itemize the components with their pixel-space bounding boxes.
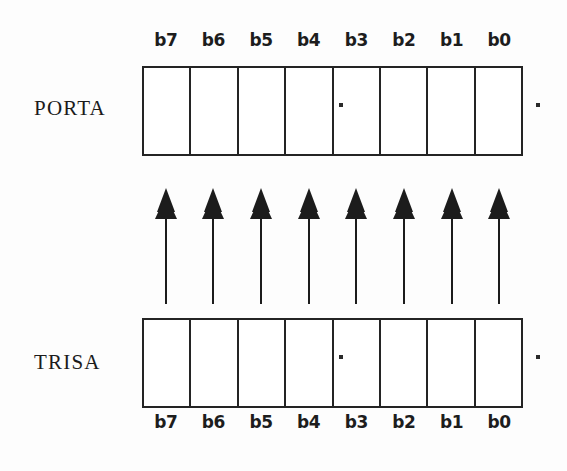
porta-cell-b5 (239, 68, 286, 154)
porta-cell-b3 (334, 68, 381, 154)
arrow-up-icon (439, 186, 465, 306)
arrow-b2 (391, 186, 417, 306)
trisa-bit-label-b4: b4 (285, 412, 333, 432)
trisa-bit-label-b7: b7 (142, 412, 190, 432)
porta-bit-label-b3: b3 (333, 30, 381, 50)
arrow-b0 (486, 186, 512, 306)
arrow-up-icon (200, 186, 226, 306)
arrow-b5 (248, 186, 274, 306)
arrow-b4 (296, 186, 322, 306)
trisa-bit-label-b1: b1 (428, 412, 476, 432)
scan-speck-icon (339, 355, 343, 359)
trisa-cell-b2 (381, 320, 428, 406)
diagram-canvas: b7 b6 b5 b4 b3 b2 b1 b0 PORTA (0, 0, 567, 471)
trisa-cell-b3 (334, 320, 381, 406)
porta-bit-label-b5: b5 (237, 30, 285, 50)
arrow-bank (142, 186, 523, 306)
trisa-cell-b0 (476, 320, 521, 406)
arrow-up-icon (153, 186, 179, 306)
porta-cell-b1 (428, 68, 475, 154)
arrow-up-icon (343, 186, 369, 306)
arrow-up-icon (296, 186, 322, 306)
trisa-bit-label-b0: b0 (475, 412, 523, 432)
arrow-b1 (439, 186, 465, 306)
porta-bit-label-b2: b2 (380, 30, 428, 50)
trisa-bit-label-b6: b6 (190, 412, 238, 432)
porta-register-box (142, 66, 523, 156)
porta-bit-label-b1: b1 (428, 30, 476, 50)
porta-bit-label-b6: b6 (190, 30, 238, 50)
trisa-register-label: TRISA (34, 350, 101, 375)
porta-cell-b0 (476, 68, 521, 154)
trisa-register-box (142, 318, 523, 408)
trisa-cell-b6 (191, 320, 238, 406)
porta-bit-label-b7: b7 (142, 30, 190, 50)
arrow-b6 (200, 186, 226, 306)
trisa-bit-label-b3: b3 (333, 412, 381, 432)
scan-speck-icon (536, 355, 540, 359)
trisa-bit-label-row: b7 b6 b5 b4 b3 b2 b1 b0 (142, 412, 523, 432)
trisa-bit-label-b2: b2 (380, 412, 428, 432)
porta-cell-b7 (144, 68, 191, 154)
trisa-bit-label-b5: b5 (237, 412, 285, 432)
porta-register-label: PORTA (34, 96, 106, 121)
arrow-up-icon (391, 186, 417, 306)
porta-bit-label-b0: b0 (475, 30, 523, 50)
trisa-cell-b7 (144, 320, 191, 406)
porta-cell-b6 (191, 68, 238, 154)
porta-cell-b4 (286, 68, 333, 154)
arrow-up-icon (248, 186, 274, 306)
scan-speck-icon (339, 103, 343, 107)
arrow-b7 (153, 186, 179, 306)
trisa-cell-b4 (286, 320, 333, 406)
porta-bit-label-b4: b4 (285, 30, 333, 50)
porta-cell-b2 (381, 68, 428, 154)
arrow-b3 (343, 186, 369, 306)
porta-bit-label-row: b7 b6 b5 b4 b3 b2 b1 b0 (142, 30, 523, 50)
scan-speck-icon (536, 103, 540, 107)
trisa-cell-b5 (239, 320, 286, 406)
trisa-cell-b1 (428, 320, 475, 406)
arrow-up-icon (486, 186, 512, 306)
